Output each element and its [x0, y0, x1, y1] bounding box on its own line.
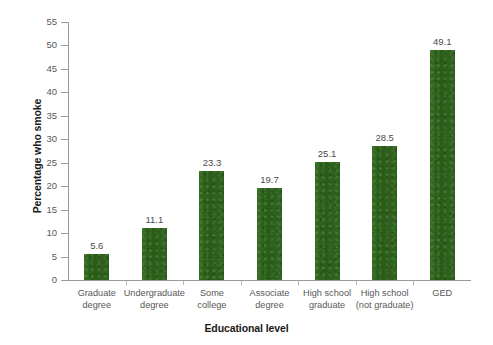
bar [257, 188, 282, 280]
bar [430, 50, 455, 280]
x-tick-label-line: (not graduate) [340, 300, 430, 312]
x-tick-mark [126, 281, 127, 285]
bar-value-label: 49.1 [417, 37, 467, 47]
x-tick-mark [356, 281, 357, 285]
y-tick-mark [61, 186, 68, 187]
y-tick-label: 5 [24, 252, 57, 262]
y-tick-label: 45 [24, 64, 57, 74]
y-tick-label: 10 [24, 228, 57, 238]
x-axis-title: Educational level [0, 322, 493, 334]
y-axis-line [68, 22, 69, 280]
y-tick-mark [61, 116, 68, 117]
y-tick-mark [61, 233, 68, 234]
bar-value-label: 19.7 [245, 175, 295, 185]
y-tick-mark [61, 163, 68, 164]
y-tick-mark [61, 22, 68, 23]
y-tick-mark [61, 69, 68, 70]
bar-value-label: 28.5 [360, 133, 410, 143]
y-tick-mark [61, 280, 68, 281]
bar-value-label: 23.3 [187, 158, 237, 168]
x-tick-mark [241, 281, 242, 285]
bar-value-label: 25.1 [302, 149, 352, 159]
y-tick-mark [61, 210, 68, 211]
y-tick-label: 55 [24, 17, 57, 27]
y-tick-label: 50 [24, 40, 57, 50]
bar-value-label: 11.1 [129, 215, 179, 225]
bar [199, 171, 224, 280]
y-tick-label: 0 [24, 275, 57, 285]
bar [372, 146, 397, 280]
y-tick-mark [61, 257, 68, 258]
y-tick-label: 40 [24, 87, 57, 97]
y-tick-mark [61, 92, 68, 93]
bar-chart: Percentage who smoke Educational level 0… [0, 0, 493, 345]
x-tick-label: GED [397, 288, 487, 300]
y-tick-label: 25 [24, 158, 57, 168]
y-axis-title: Percentage who smoke [31, 56, 43, 256]
x-tick-mark [183, 281, 184, 285]
bar [84, 254, 109, 280]
y-tick-label: 20 [24, 181, 57, 191]
bar [142, 228, 167, 280]
y-tick-label: 30 [24, 134, 57, 144]
bar-value-label: 5.6 [72, 241, 122, 251]
x-tick-label-line: GED [397, 288, 487, 300]
x-tick-mark [413, 281, 414, 285]
y-tick-label: 15 [24, 205, 57, 215]
x-axis-line [68, 280, 471, 281]
y-tick-mark [61, 45, 68, 46]
bar [315, 162, 340, 280]
y-tick-mark [61, 139, 68, 140]
y-tick-label: 35 [24, 111, 57, 121]
x-tick-mark [298, 281, 299, 285]
